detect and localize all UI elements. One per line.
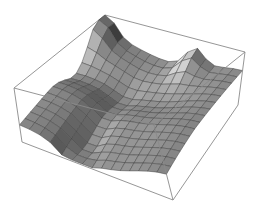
box-edge <box>238 52 245 105</box>
surface-mesh <box>19 15 242 174</box>
surface-plot <box>0 0 259 211</box>
box-edge <box>14 88 22 142</box>
